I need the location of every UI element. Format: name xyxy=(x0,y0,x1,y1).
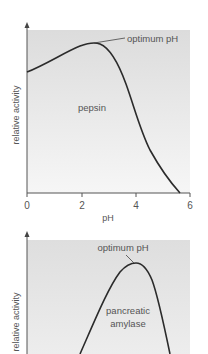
y-axis-label: relative activity xyxy=(11,292,21,352)
x-ticks xyxy=(27,193,190,197)
y-axis-arrow-icon xyxy=(25,22,30,28)
plot-area xyxy=(27,30,190,193)
optimum-label: optimum pH xyxy=(97,242,148,253)
figure: 0 2 4 6 pH relative activity optimum pH … xyxy=(0,0,208,354)
x-tick-label: 2 xyxy=(79,200,85,211)
y-axis-label: relative activity xyxy=(11,85,21,145)
x-tick-label: 4 xyxy=(133,200,139,211)
chart-pepsin: 0 2 4 6 pH relative activity optimum pH … xyxy=(11,22,193,223)
y-axis-arrow-icon xyxy=(25,231,30,237)
optimum-label: optimum pH xyxy=(127,33,178,44)
plot-area xyxy=(27,240,190,354)
x-tick-label: 6 xyxy=(187,200,193,211)
chart-amylase: relative activity optimum pH pancreatic … xyxy=(11,231,190,354)
curve-label-pepsin: pepsin xyxy=(78,102,106,113)
x-axis-label: pH xyxy=(102,213,114,223)
x-tick-label: 0 xyxy=(24,200,30,211)
curve-label-amylase-line2: amylase xyxy=(110,318,145,329)
curve-label-amylase-line1: pancreatic xyxy=(106,305,150,316)
